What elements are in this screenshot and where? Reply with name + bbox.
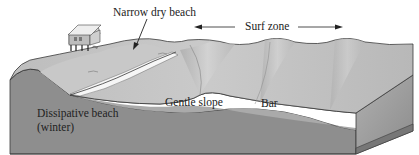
beach-profile-diagram: Narrow dry beach Surf zone Gentle slope … — [0, 0, 419, 155]
beach-type-label: Dissipative beach — [37, 107, 118, 120]
bar-label: Bar — [261, 97, 278, 110]
season-label: (winter) — [37, 121, 74, 134]
gentle-slope-label: Gentle slope — [165, 96, 223, 109]
narrow-dry-beach-label: Narrow dry beach — [113, 6, 196, 19]
beach-house-icon — [68, 25, 101, 51]
surf-zone-label: Surf zone — [245, 20, 289, 33]
